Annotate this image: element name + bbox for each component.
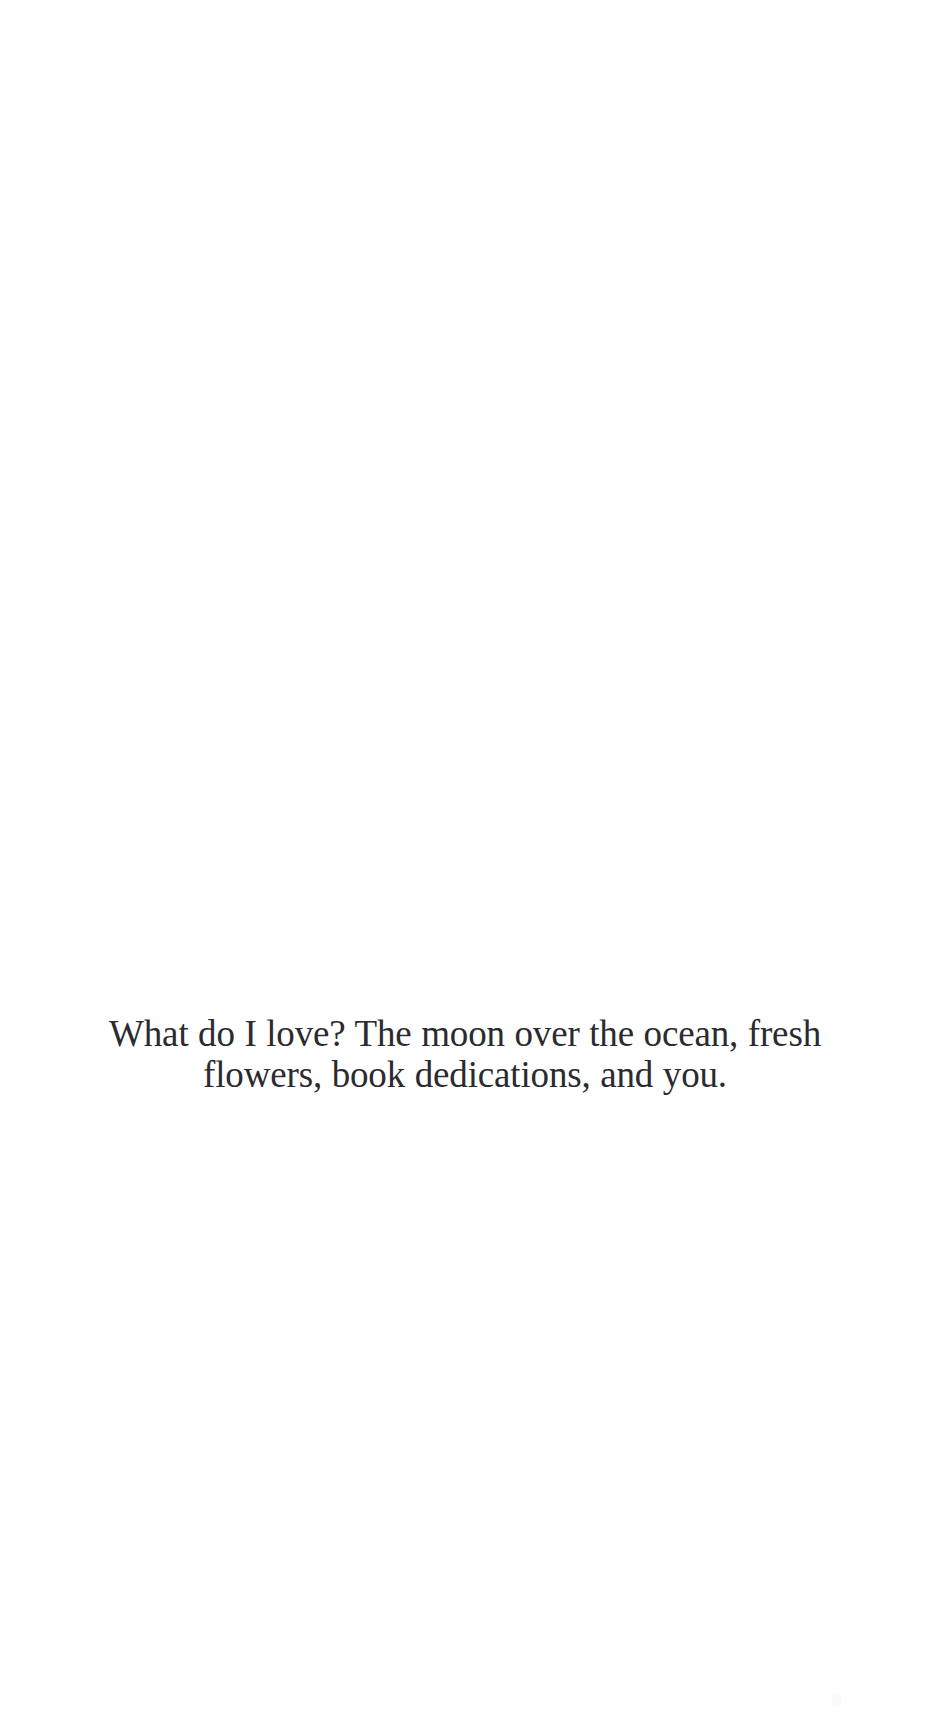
- scan-speck-artifact: [832, 1694, 841, 1707]
- scanned-page: What do I love? The moon over the ocean,…: [0, 0, 930, 1731]
- epigraph-block: What do I love? The moon over the ocean,…: [0, 1013, 930, 1095]
- epigraph-text: What do I love? The moon over the ocean,…: [59, 1013, 871, 1095]
